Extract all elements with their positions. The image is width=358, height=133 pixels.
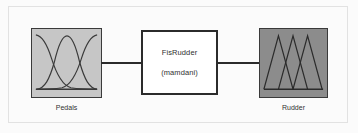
input-membership-functions-plot xyxy=(32,29,101,97)
fis-block-diagram: Pedals FisRudder (mamdani) Rudder xyxy=(0,0,358,133)
connector-system-to-output xyxy=(217,62,260,64)
connector-input-to-system xyxy=(101,62,142,64)
fis-inference-type: (mamdani) xyxy=(161,69,198,77)
fis-system-block[interactable]: FisRudder (mamdani) xyxy=(141,30,218,95)
fis-system-name: FisRudder xyxy=(162,49,198,57)
output-membership-functions-plot xyxy=(260,29,327,97)
input-variable-label: Pedals xyxy=(31,104,102,111)
output-variable-block[interactable] xyxy=(259,28,328,98)
input-variable-block[interactable] xyxy=(31,28,102,98)
output-variable-label: Rudder xyxy=(259,104,328,111)
